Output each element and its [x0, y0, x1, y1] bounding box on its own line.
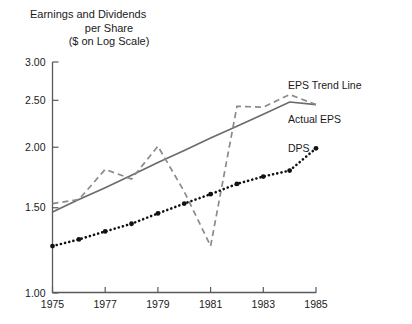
y-tick-label: 2.00 — [25, 141, 46, 153]
series-line-dps — [53, 148, 317, 246]
series-marker-dps — [50, 244, 55, 249]
x-tick-label: 1975 — [41, 298, 65, 310]
series-markers-dps — [50, 146, 318, 249]
x-axis: 197519771979198119831985 — [41, 287, 328, 310]
series-line-actual-eps — [53, 95, 317, 247]
x-tick-labels: 197519771979198119831985 — [41, 298, 328, 310]
series-marker-dps — [182, 201, 187, 206]
legend-label-eps-trend-line: EPS Trend Line — [288, 79, 362, 91]
y-tick-label: 3.00 — [25, 56, 46, 68]
series-marker-dps — [129, 221, 134, 226]
plot-series — [50, 95, 318, 249]
series-line-eps-trend-line — [53, 102, 317, 212]
legend-label-dps: DPS — [288, 142, 310, 154]
y-tick-labels: 3.002.502.001.501.00 — [25, 56, 46, 299]
x-tick-label: 1977 — [94, 298, 118, 310]
y-tick-label: 1.00 — [25, 287, 46, 299]
series-marker-dps — [76, 237, 81, 242]
y-tick-label: 1.50 — [25, 201, 46, 213]
series-marker-dps — [261, 174, 266, 179]
x-tick-label: 1985 — [304, 298, 328, 310]
series-marker-dps — [314, 146, 319, 151]
legend-label-actual-eps: Actual EPS — [288, 113, 341, 125]
legend: EPS Trend Line Actual EPS DPS — [288, 79, 362, 154]
chart-canvas: 3.002.502.001.501.00 1975197719791981198… — [0, 0, 412, 324]
series-marker-dps — [208, 192, 213, 197]
series-marker-dps — [103, 229, 108, 234]
x-tick-label: 1981 — [199, 298, 223, 310]
series-marker-dps — [287, 168, 292, 173]
y-tick-label: 2.50 — [25, 94, 46, 106]
series-marker-dps — [156, 211, 161, 216]
y-tick-marks — [53, 62, 59, 293]
series-marker-dps — [235, 182, 240, 187]
x-tick-label: 1979 — [146, 298, 170, 310]
chart-figure: Earnings and Dividends per Share ($ on L… — [0, 0, 412, 324]
y-axis: 3.002.502.001.501.00 — [25, 56, 58, 299]
x-tick-label: 1983 — [252, 298, 276, 310]
